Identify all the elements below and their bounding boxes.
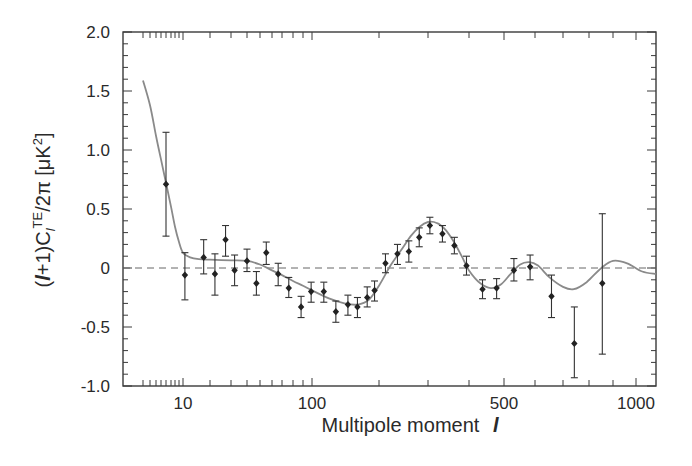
x-tick-labels: 101005001000 xyxy=(174,394,655,413)
diamond-marker xyxy=(222,236,228,243)
data-point xyxy=(332,301,339,322)
x-axis-title-var: l xyxy=(493,414,499,436)
diamond-marker xyxy=(382,260,388,267)
y-tick-label: -0.5 xyxy=(81,318,110,337)
data-point xyxy=(344,295,351,315)
y-tick-label: -1.0 xyxy=(81,377,110,396)
svg-text:Multipole moment l: Multipole moment l xyxy=(322,414,499,436)
y-axis-title-mid: +1)C xyxy=(32,231,54,275)
data-point xyxy=(222,226,229,257)
y-tick-labels: 2.01.51.00.50-0.5-1.0 xyxy=(81,23,110,396)
y-tick-label: 1.5 xyxy=(86,82,110,101)
data-point xyxy=(527,255,534,280)
data-point xyxy=(405,241,412,262)
y-axis-title-rest: /2π [μK xyxy=(32,145,54,212)
y-axis-title: (l+1)ClTE/2π [μK2] xyxy=(30,133,58,288)
diamond-marker xyxy=(253,280,259,287)
data-point xyxy=(371,281,378,301)
diamond-marker xyxy=(548,293,554,300)
data-point xyxy=(275,263,282,285)
diamond-marker xyxy=(571,340,577,347)
data-point xyxy=(354,298,361,318)
diamond-marker xyxy=(406,248,412,255)
data-point xyxy=(320,282,327,302)
y-tick-label: 0 xyxy=(101,259,110,278)
data-point xyxy=(416,228,423,247)
y-axis-title-sup: TE xyxy=(30,211,45,228)
data-point xyxy=(510,259,517,281)
model-curve xyxy=(143,80,656,304)
y-tick-label: 0.5 xyxy=(86,200,110,219)
data-point xyxy=(181,253,188,300)
y-axis-title-sub: l xyxy=(43,227,58,231)
data-points xyxy=(163,132,606,377)
x-tick-label: 10 xyxy=(174,394,193,413)
x-tick-label: 1000 xyxy=(617,394,655,413)
x-tick-label: 100 xyxy=(298,394,326,413)
x-tick-label: 500 xyxy=(490,394,518,413)
data-point xyxy=(253,272,260,296)
plot-frame xyxy=(123,32,656,386)
x-axis-title-text: Multipole moment xyxy=(322,414,480,436)
diamond-marker xyxy=(599,280,605,287)
y-axis-title-close: ] xyxy=(32,133,54,139)
data-point xyxy=(308,282,315,302)
y-tick-label: 1.0 xyxy=(86,141,110,160)
diamond-marker xyxy=(527,263,533,270)
diamond-marker xyxy=(244,257,250,264)
diamond-marker xyxy=(298,303,304,310)
diamond-marker xyxy=(416,234,422,241)
data-point xyxy=(298,296,305,317)
data-point xyxy=(426,217,433,234)
diamond-marker xyxy=(182,271,188,278)
data-point xyxy=(394,244,401,264)
cmb-te-spectrum-chart: 2.01.51.00.50-0.5-1.0 101005001000 Multi… xyxy=(0,0,692,466)
diamond-marker xyxy=(163,181,169,188)
data-point xyxy=(571,307,578,378)
diamond-marker xyxy=(286,284,292,291)
data-point xyxy=(364,287,371,307)
diamond-marker xyxy=(212,270,218,277)
svg-text:(l+1)ClTE/2π [μK2]: (l+1)ClTE/2π [μK2] xyxy=(30,133,58,288)
diamond-marker xyxy=(345,301,351,308)
diamond-marker xyxy=(439,230,445,237)
diamond-marker xyxy=(333,308,339,315)
data-point xyxy=(493,279,500,299)
y-axis-title-sq: 2 xyxy=(30,138,45,145)
plot-border xyxy=(123,32,656,386)
data-point xyxy=(599,214,606,354)
diamond-marker xyxy=(263,249,269,256)
axis-ticks xyxy=(123,32,656,386)
model-curve-path xyxy=(143,80,656,304)
data-point xyxy=(263,242,270,264)
data-point xyxy=(163,132,170,236)
y-tick-label: 2.0 xyxy=(86,23,110,42)
x-axis-title: Multipole moment l xyxy=(322,414,499,436)
data-point xyxy=(200,240,207,274)
